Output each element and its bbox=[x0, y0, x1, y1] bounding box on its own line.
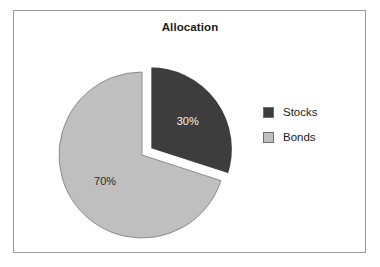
pie-slice-label-bonds: 70% bbox=[94, 175, 116, 187]
chart-legend: Stocks Bonds bbox=[263, 100, 318, 150]
pie-slice-label-stocks: 30% bbox=[177, 115, 199, 127]
legend-swatch-bonds bbox=[263, 132, 274, 143]
legend-label-bonds: Bonds bbox=[283, 132, 316, 144]
pie-graphic: 30% 70% bbox=[0, 0, 380, 267]
legend-label-stocks: Stocks bbox=[283, 107, 318, 119]
legend-swatch-stocks bbox=[263, 107, 274, 118]
legend-item-bonds[interactable]: Bonds bbox=[263, 125, 318, 150]
pie-chart-figure: Allocation 30% 70% Stocks Bonds bbox=[0, 0, 380, 267]
legend-item-stocks[interactable]: Stocks bbox=[263, 100, 318, 125]
